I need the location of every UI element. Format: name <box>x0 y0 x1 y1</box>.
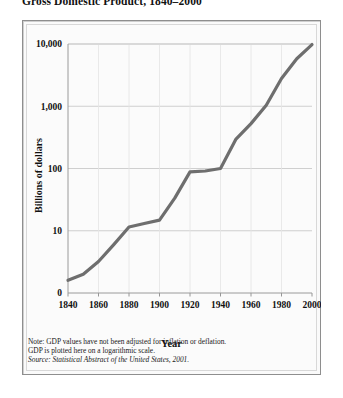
svg-text:1980: 1980 <box>272 300 291 310</box>
y-tick-labels: 0101001,00010,000 <box>36 39 62 298</box>
svg-text:1880: 1880 <box>120 300 139 310</box>
svg-text:2000: 2000 <box>303 300 322 310</box>
svg-text:10,000: 10,000 <box>36 39 62 49</box>
svg-text:1900: 1900 <box>150 300 169 310</box>
note-line-2: GDP is plotted here on a logarithmic sca… <box>28 346 318 355</box>
figure-page: Gross Domestic Product, 1840–2000 Billio… <box>0 0 343 398</box>
svg-text:1960: 1960 <box>242 300 261 310</box>
x-tick-labels: 184018601880190019201940196019802000 <box>59 300 322 310</box>
chart-area: Billions of dollars Year 0101001,00010,0… <box>22 20 321 375</box>
svg-text:0: 0 <box>57 288 62 298</box>
svg-text:1840: 1840 <box>59 300 78 310</box>
x-tick-marks <box>68 293 312 297</box>
svg-text:10: 10 <box>53 226 63 236</box>
svg-text:1860: 1860 <box>89 300 108 310</box>
svg-text:1920: 1920 <box>181 300 200 310</box>
gdp-line-chart: 0101001,00010,000 1840186018801900192019… <box>22 20 321 375</box>
note-line-1: Note: GDP values have not been adjusted … <box>28 337 318 346</box>
svg-text:100: 100 <box>48 164 63 174</box>
figure-title: Gross Domestic Product, 1840–2000 <box>22 0 202 7</box>
svg-text:1,000: 1,000 <box>41 102 63 112</box>
svg-text:1940: 1940 <box>211 300 230 310</box>
figure-source: Source: Statistical Abstract of the Unit… <box>28 355 318 364</box>
figure-notes: Note: GDP values have not been adjusted … <box>28 337 318 365</box>
